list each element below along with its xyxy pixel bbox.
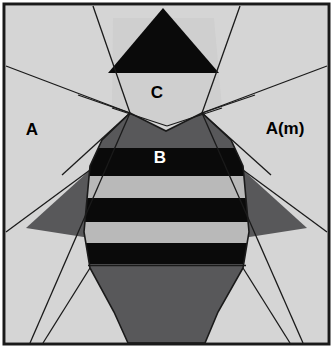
black-band-3 bbox=[70, 243, 270, 264]
label-c: C bbox=[151, 83, 163, 102]
gray-band-2 bbox=[70, 222, 270, 243]
label-a-m: A(m) bbox=[266, 119, 305, 138]
geometric-diagram: A A(m) C B bbox=[0, 0, 333, 348]
figure-container: A A(m) C B bbox=[0, 0, 333, 348]
gray-band-1 bbox=[70, 176, 270, 198]
black-band-2 bbox=[70, 198, 270, 222]
label-a: A bbox=[26, 120, 38, 139]
stripe-group bbox=[70, 148, 270, 264]
label-b: B bbox=[154, 148, 166, 167]
